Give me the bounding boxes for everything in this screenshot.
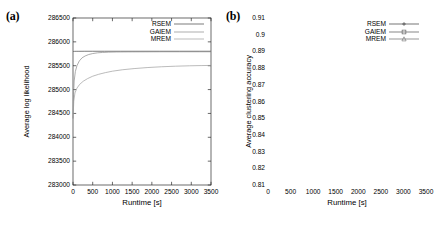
y-tick-label: 0.82 (252, 164, 265, 171)
data-marker (402, 22, 406, 26)
y-tick-label: 0.86 (252, 98, 265, 105)
figure-container: (a) 283000283500284000284500285000285500… (0, 0, 444, 227)
legend-label-gaiem: GAIEM (365, 28, 386, 35)
legend-label-mrem: MREM (366, 35, 386, 42)
chart-svg-1 (0, 0, 222, 227)
y-tick-label: 0.85 (252, 114, 265, 121)
x-tick-label: 3500 (412, 188, 440, 195)
y-tick-label: 0.91 (252, 14, 265, 21)
y-tick-label: 0.83 (252, 148, 265, 155)
plot-area-b: 0.810.820.830.840.850.860.870.880.890.90… (0, 0, 222, 227)
x-axis-label: Runtime [s] (268, 198, 426, 207)
y-tick-label: 0.88 (252, 64, 265, 71)
y-tick-label: 0.84 (252, 131, 265, 138)
y-axis-label: Average clustering accuracy (244, 18, 253, 185)
legend-label-rsem: RSEM (367, 20, 386, 27)
y-tick-label: 0.87 (252, 81, 265, 88)
y-tick-label: 0.89 (252, 47, 265, 54)
legend-sample-mrem (388, 34, 420, 44)
panel-b: (b) 0.810.820.830.840.850.860.870.880.89… (222, 0, 444, 227)
y-tick-label: 0.9 (256, 31, 265, 38)
panel-b-label: (b) (226, 9, 240, 24)
